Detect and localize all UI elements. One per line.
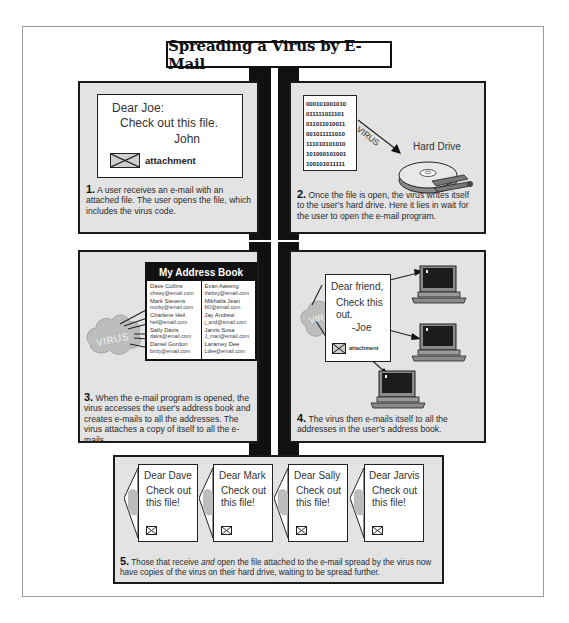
step-number: 5. (120, 555, 129, 567)
letter-card: Dear Dave Check out this file! (138, 464, 198, 542)
contact-entry: Charlene Heilheil@email.com (150, 312, 198, 325)
contact-email: birdy@email.com (150, 348, 198, 354)
envelope-icon (332, 343, 346, 354)
binary-code-file: 000101001010 011111011101 011011010011 0… (303, 95, 357, 171)
email-signature: John (174, 132, 200, 146)
step-number: 1. (86, 183, 95, 195)
caption-text: The virus then e-mails itself to all the… (297, 414, 448, 434)
binary-line: 000101001010 (306, 99, 354, 109)
binary-line: 100101011111 (306, 159, 354, 169)
letter-greeting: Dear Jarvis (369, 470, 420, 482)
contact-email: morky@email.com (150, 304, 198, 310)
envelope-icon (296, 526, 307, 535)
step-number: 3. (84, 391, 93, 403)
caption-text: Once the file is open, the virus writes … (297, 190, 469, 221)
email-card: Dear friend, Check this out. -Joe attach… (325, 274, 391, 362)
attachment-label: attachment (145, 155, 196, 167)
contact-entry: Dave Cullinschewy@email.com (150, 283, 198, 296)
contact-email: j_and@email.com (205, 319, 253, 325)
contact-entry: Jarvis SosaJ_man@email.com (205, 327, 253, 340)
letter-line: Check out (296, 485, 341, 497)
computer-icon (410, 323, 468, 363)
letter-line: this file! (372, 497, 406, 509)
contact-name: Evan Aaseng (205, 283, 253, 290)
forwarded-email-4: Dear Jarvis Check out this file! (350, 464, 426, 542)
letter-line: Check out (372, 485, 417, 497)
contact-name: Laramey Dee (205, 341, 253, 348)
letter-card: Dear Mark Check out this file! (213, 464, 273, 542)
caption-step-2: 2. Once the file is open, the virus writ… (297, 189, 475, 221)
contact-name: Sally Davis (150, 327, 198, 334)
contact-email: J_man@email.com (205, 333, 253, 339)
contact-entry: Sally Davisdavis@email.com (150, 327, 198, 340)
computer-icon (369, 370, 427, 410)
contact-entry: Evan Aasengtheboy@email.com (205, 283, 253, 296)
email-card: Dear Joe: Check out this file. John atta… (97, 94, 243, 178)
binary-line: 101000101001 (306, 149, 354, 159)
binary-line: 011011010011 (306, 119, 354, 129)
contact-entry: Mikhaila JeanMJ@email.com (205, 298, 253, 311)
letter-greeting: Dear Dave (144, 470, 192, 482)
title-box: Spreading a Virus by E-Mail (166, 41, 392, 68)
page-title: Spreading a Virus by E-Mail (168, 37, 390, 73)
contact-email: theboy@email.com (205, 290, 253, 296)
spine-gap (271, 68, 278, 456)
panel-step-1: Dear Joe: Check out this file. John atta… (78, 81, 259, 234)
forwarded-email-2: Dear Mark Check out this file! (199, 464, 275, 542)
caption-text-pre: Those that receive (131, 558, 201, 567)
letter-line: Check out (146, 485, 191, 497)
spine-gap-horizontal-1 (249, 240, 299, 242)
address-column-right: Evan Aasengtheboy@email.com Mikhaila Jea… (202, 281, 256, 359)
forwarded-email-1: Dear Dave Check out this file! (124, 464, 200, 542)
letter-line: this file! (221, 497, 255, 509)
contact-email: MJ@email.com (205, 304, 253, 310)
contact-name: Jay Andrew (205, 312, 253, 319)
email-body: Check out this file. (120, 116, 218, 130)
spine-left-bar (257, 68, 271, 455)
contact-email: Ldee@email.com (205, 348, 253, 354)
email-body-line2: out. (336, 309, 353, 321)
hard-drive-label: Hard Drive (413, 141, 461, 152)
contact-entry: Laramey DeeLdee@email.com (205, 341, 253, 354)
caption-step-4: 4. The virus then e-mails itself to all … (297, 413, 479, 435)
contact-name: Jarvis Sosa (205, 327, 253, 334)
envelope-icon (221, 526, 232, 535)
contact-email: chewy@email.com (150, 290, 198, 296)
address-book-title: My Address Book (147, 264, 255, 281)
envelope-icon (110, 153, 140, 168)
caption-step-3: 3. When the e-mail program is opened, th… (84, 392, 256, 445)
caption-text: A user receives an e-mail with an attach… (86, 185, 251, 216)
letter-greeting: Dear Mark (219, 470, 266, 482)
address-column-left: Dave Cullinschewy@email.com Mark Stevens… (147, 281, 202, 359)
step-number: 4. (297, 412, 306, 424)
binary-line: 001011111010 (306, 129, 354, 139)
letter-line: this file! (146, 497, 180, 509)
caption-step-5: 5. Those that receive and open the file … (120, 556, 440, 578)
email-body-line1: Check this (336, 297, 383, 309)
contact-email: davis@email.com (150, 333, 198, 339)
envelope-icon (146, 526, 157, 535)
contact-entry: Mark Stevensmorky@email.com (150, 298, 198, 311)
letter-greeting: Dear Sally (294, 470, 340, 482)
binary-line: 011111011101 (306, 109, 354, 119)
email-greeting: Dear friend, (331, 281, 383, 293)
contact-name: Mikhaila Jean (205, 298, 253, 305)
contact-entry: Daniel Gordonbirdy@email.com (150, 341, 198, 354)
contact-name: Dave Cullins (150, 283, 198, 290)
contact-entry: Jay Andrewj_and@email.com (205, 312, 253, 325)
binary-line: 111010101010 (306, 139, 354, 149)
attachment-label: attachment (349, 345, 378, 352)
email-signature: -Joe (352, 322, 371, 334)
computer-icon (410, 265, 468, 305)
envelope-icon (372, 526, 383, 535)
caption-emphasis: and (201, 558, 215, 567)
contact-name: Daniel Gordon (150, 341, 198, 348)
address-book: My Address Book Dave Cullinschewy@email.… (145, 262, 257, 361)
step-number: 2. (297, 188, 306, 200)
contact-name: Mark Stevens (150, 298, 198, 305)
email-greeting: Dear Joe: (112, 101, 164, 115)
caption-text: When the e-mail program is opened, the v… (84, 393, 250, 445)
letter-card: Dear Sally Check out this file! (288, 464, 348, 542)
forwarded-email-3: Dear Sally Check out this file! (274, 464, 350, 542)
letter-card: Dear Jarvis Check out this file! (364, 464, 424, 542)
